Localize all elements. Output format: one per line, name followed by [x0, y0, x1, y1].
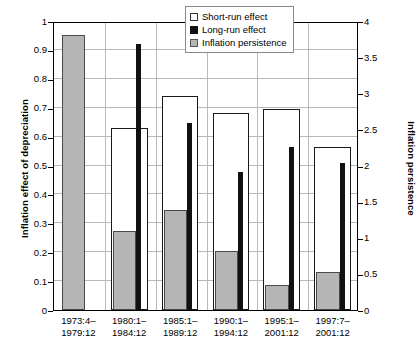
- y-tick-label-left: 0.7: [13, 102, 47, 113]
- chart-figure: Inflation effect of depreciation Inflati…: [0, 0, 417, 358]
- bar-group: [257, 23, 308, 310]
- y-tick-label-left: 0.3: [13, 218, 47, 229]
- y-tick-label-right: 2.5: [364, 124, 398, 135]
- bar-short-run-effect: [263, 109, 300, 310]
- x-category-label-line: 1989:12: [155, 327, 206, 339]
- legend-label-short-run: Short-run effect: [202, 11, 267, 22]
- y-tick-label-right: 3.5: [364, 52, 398, 63]
- legend-item-short-run: Short-run effect: [190, 10, 287, 23]
- bar-long-run-effect: [238, 172, 243, 310]
- y-tick-label-right: 3: [364, 88, 398, 99]
- bar-group: [156, 23, 207, 310]
- bar-inflation-persistence: [113, 231, 136, 310]
- y-tick-label-right: 0.5: [364, 268, 398, 279]
- y-tick-label-left: 0.9: [13, 44, 47, 55]
- bar-inflation-persistence: [265, 285, 288, 310]
- y-tick-label-left: 0.4: [13, 189, 47, 200]
- bar-inflation-persistence: [62, 35, 85, 310]
- legend-item-persistence: Inflation persistence: [190, 36, 287, 49]
- open-square-swatch-icon: [190, 13, 198, 21]
- x-category-label: 1995:1–2001:12: [256, 315, 307, 338]
- bar-series-layer: [54, 23, 357, 310]
- x-category-label-line: 1994:12: [206, 327, 257, 339]
- chart-legend: Short-run effect Long-run effect Inflati…: [185, 6, 294, 53]
- x-category-label-line: 1980:1–: [104, 315, 155, 327]
- y-tick-label-left: 0.8: [13, 73, 47, 84]
- y-tick-mark-right: [358, 311, 363, 312]
- y-tick-label-left: 0: [13, 305, 47, 316]
- y-tick-label-right: 2: [364, 160, 398, 171]
- bar-group: [308, 23, 359, 310]
- x-category-label-line: 1997:7–: [307, 315, 358, 327]
- x-category-label-line: 1990:1–: [206, 315, 257, 327]
- y-tick-label-left: 1: [13, 16, 47, 27]
- legend-label-persistence: Inflation persistence: [202, 37, 287, 48]
- y-tick-label-left: 0.1: [13, 276, 47, 287]
- y-axis-title-right: Inflation persistence: [406, 74, 417, 264]
- bar-inflation-persistence: [316, 272, 339, 310]
- x-category-label-line: 2001:12: [256, 327, 307, 339]
- bar-inflation-persistence: [164, 210, 187, 310]
- x-category-label-line: 1973:4–: [53, 315, 104, 327]
- x-category-label-line: 1979:12: [53, 327, 104, 339]
- bar-long-run-effect: [340, 163, 345, 310]
- bar-inflation-persistence: [215, 251, 238, 310]
- x-category-label-line: 2001:12: [307, 327, 358, 339]
- x-category-label: 1973:4–1979:12: [53, 315, 104, 338]
- x-category-label: 1980:1–1984:12: [104, 315, 155, 338]
- bar-long-run-effect: [289, 147, 294, 310]
- plot-area: [53, 22, 358, 311]
- bar-long-run-effect: [136, 44, 141, 310]
- x-category-label-line: 1985:1–: [155, 315, 206, 327]
- y-tick-label-left: 0.2: [13, 247, 47, 258]
- x-category-label-line: 1995:1–: [256, 315, 307, 327]
- y-tick-mark-left: [48, 311, 53, 312]
- y-tick-label-left: 0.6: [13, 131, 47, 142]
- filled-gray-square-swatch-icon: [190, 39, 198, 47]
- bar-group: [105, 23, 156, 310]
- filled-black-square-swatch-icon: [190, 26, 198, 34]
- bar-long-run-effect: [187, 123, 192, 310]
- y-tick-label-right: 0: [364, 305, 398, 316]
- y-tick-label-right: 4: [364, 16, 398, 27]
- x-category-label: 1997:7–2001:12: [307, 315, 358, 338]
- y-tick-label-right: 1: [364, 232, 398, 243]
- x-category-label: 1990:1–1994:12: [206, 315, 257, 338]
- bar-group: [207, 23, 258, 310]
- x-category-label: 1985:1–1989:12: [155, 315, 206, 338]
- y-tick-label-left: 0.5: [13, 160, 47, 171]
- legend-item-long-run: Long-run effect: [190, 23, 287, 36]
- legend-label-long-run: Long-run effect: [202, 24, 266, 35]
- y-tick-label-right: 1.5: [364, 196, 398, 207]
- x-category-label-line: 1984:12: [104, 327, 155, 339]
- bar-group: [54, 23, 105, 310]
